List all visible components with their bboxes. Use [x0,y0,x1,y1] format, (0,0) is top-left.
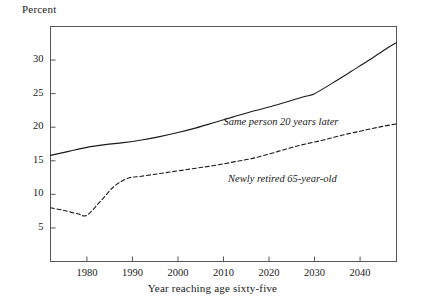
series-line-same-person-20-years-later [51,43,397,156]
y-tick-label: 10 [18,187,44,198]
y-axis-title: Percent [22,3,56,15]
x-tick-label: 1980 [64,267,110,278]
plot-frame [51,27,397,262]
y-tick-label: 25 [18,87,44,98]
x-tick-label: 2040 [337,267,383,278]
x-tick-label: 2020 [246,267,292,278]
series-line-newly-retired-65-year-old [51,124,397,216]
y-tick-label: 5 [18,221,44,232]
y-axis-ticks [51,60,56,228]
x-tick-label: 2000 [155,267,201,278]
y-tick-label: 30 [18,53,44,64]
y-tick-label: 15 [18,154,44,165]
series-annotation-label: Same person 20 years later [224,116,339,127]
x-tick-label: 2010 [201,267,247,278]
x-tick-label: 2030 [292,267,338,278]
x-axis-ticks [87,257,360,262]
x-axis-title: Year reaching age sixty-five [0,282,425,294]
plot-area [0,0,425,304]
x-tick-label: 1990 [109,267,155,278]
chart-figure: Percent 51015202530 19801990200020102020… [0,0,425,304]
series-annotation-label: Newly retired 65-year-old [228,173,337,184]
y-tick-label: 20 [18,120,44,131]
